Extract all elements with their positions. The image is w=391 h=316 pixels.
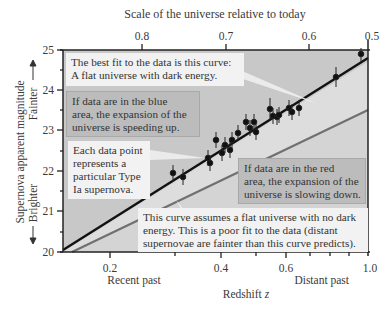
callout-line: This curve assumes a flat universe with …: [143, 211, 363, 224]
callout-line: particular Type: [73, 170, 145, 183]
blue-area-callout: If data are in the blue area, the expans…: [66, 91, 200, 137]
callout-line: Each data point: [73, 144, 145, 157]
x-tick-label: 0.6: [279, 262, 294, 274]
callout-line: Ia supernova.: [73, 183, 145, 196]
red-area-callout: If data are in the red area, the expansi…: [238, 158, 366, 204]
data-point-callout: Each data point represents a particular …: [68, 141, 150, 199]
callout-line: area, the expansion of the: [72, 108, 194, 121]
top-tick-label: 0.8: [135, 30, 150, 42]
fainter-arrow-icon: [30, 60, 36, 80]
y-tick-label: 25: [43, 44, 55, 56]
top-tick-label: 0.7: [219, 30, 234, 42]
x-tick-label: 1.0: [363, 262, 378, 274]
callout-line: If data are in the red: [244, 162, 360, 175]
callout-line: supernovae are fainter than this curve p…: [143, 237, 363, 250]
no-dark-energy-callout: This curve assumes a flat universe with …: [138, 208, 368, 252]
y-tick-label: 22: [43, 165, 55, 177]
best-fit-callout: The best fit to the data is this curve: …: [66, 53, 244, 86]
y-tick-label: 23: [43, 124, 55, 136]
x-tick-label: 0.4: [214, 262, 229, 274]
brighter-label: Brighter: [27, 184, 40, 222]
x-ticks: [110, 252, 349, 258]
distant-past-label: Distant past: [294, 274, 349, 287]
y-axis-title: Supernova apparent magnitude: [14, 80, 27, 223]
y-tick-label: 21: [43, 205, 55, 217]
fainter-label: Fainter: [27, 88, 39, 121]
top-tick-label: 0.6: [302, 30, 317, 42]
callout-line: The best fit to the data is this curve:: [71, 56, 239, 69]
callout-line: A flat universe with dark energy.: [71, 69, 239, 82]
top-tick-label: 0.5: [365, 30, 380, 42]
callout-line: represents a: [73, 157, 145, 170]
x-tick-label: 0.2: [103, 262, 118, 274]
y-tick-label: 24: [43, 84, 55, 96]
callout-line: energy. This is a poor fit to the data (…: [143, 224, 363, 237]
callout-line: universe is slowing down.: [244, 188, 360, 201]
callout-line: area, the expansion of the: [244, 175, 360, 188]
brighter-arrow-icon: [30, 226, 36, 244]
top-axis-title: Scale of the universe relative to today: [124, 7, 305, 21]
recent-past-label: Recent past: [107, 274, 161, 287]
callout-line: If data are in the blue: [72, 95, 194, 108]
top-ticks: [142, 44, 309, 50]
callout-line: universe is speeding up.: [72, 121, 194, 134]
y-tick-label: 20: [43, 246, 55, 258]
x-axis-title: Redshift z: [223, 288, 270, 300]
y-ticks: [57, 50, 63, 252]
